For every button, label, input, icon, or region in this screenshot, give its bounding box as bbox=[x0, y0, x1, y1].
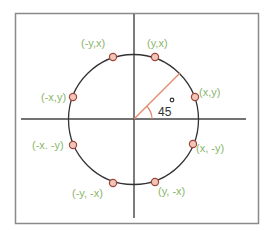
point-marker-x-y bbox=[191, 93, 198, 100]
point-label-x-neg-y: (x, -y) bbox=[196, 142, 224, 154]
point-label-neg-y-neg-x: (-y, -x) bbox=[72, 187, 103, 199]
point-label-neg-x-y: (-x,y) bbox=[41, 91, 66, 103]
point-marker-y-x bbox=[151, 53, 158, 60]
point-marker-neg-y-x bbox=[109, 53, 116, 60]
point-label-y-x: (y,x) bbox=[147, 37, 168, 49]
point-label-neg-x-neg-y: (-x. -y) bbox=[32, 139, 64, 151]
point-marker-neg-y-neg-x bbox=[109, 179, 116, 186]
point-marker-neg-x-neg-y bbox=[69, 141, 76, 148]
point-label-x-y: (x,y) bbox=[199, 86, 220, 98]
point-label-neg-y-x: (-y,x) bbox=[81, 37, 105, 49]
angle-label: 45 bbox=[158, 105, 172, 119]
point-marker-neg-x-y bbox=[69, 93, 76, 100]
circle-symmetry-diagram: 45 (y,x)(-y,x)(x,y)(-x,y)(-x. -y)(x, -y)… bbox=[0, 0, 270, 231]
point-label-y-neg-x: (y, -x) bbox=[158, 185, 185, 197]
